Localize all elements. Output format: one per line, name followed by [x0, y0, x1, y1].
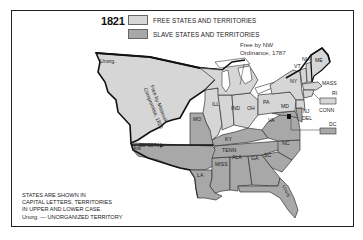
label-ri: RI: [332, 90, 337, 96]
label-la: LA: [197, 172, 204, 178]
label-sc: SC: [264, 152, 271, 158]
nw-ordinance-line2: Ordinance, 1787: [240, 49, 286, 57]
region-dc: [287, 114, 291, 119]
label-ill: ILL: [212, 101, 219, 107]
footnote-line4: Unorg. — UNORGANIZED TERRITORY: [22, 214, 122, 221]
label-ky: KY: [225, 136, 232, 142]
label-mo: MO: [193, 116, 201, 122]
label-me: ME: [315, 57, 323, 63]
label-unorg-west: Unorg.: [100, 58, 116, 64]
footnote-line1: STATES ARE SHOWN IN: [22, 192, 122, 199]
label-ind: IND: [231, 105, 240, 111]
label-nc: NC: [282, 140, 290, 146]
label-tenn: TENN: [222, 147, 236, 153]
label-oh: OH: [247, 105, 255, 111]
label-ga: GA: [251, 155, 259, 161]
label-ny: NY: [290, 78, 298, 84]
region-conn: [303, 90, 314, 98]
label-va: VA: [268, 117, 275, 123]
latitude-marker: 36°30'N ▶: [139, 142, 165, 148]
dc-callout: [320, 128, 336, 134]
label-vt: VT: [294, 63, 301, 69]
footnote: STATES ARE SHOWN IN CAPITAL LETTERS, TER…: [22, 192, 122, 221]
nw-ordinance-note: Free by NW Ordinance, 1787: [240, 41, 286, 56]
nw-ordinance-line1: Free by NW: [240, 41, 286, 49]
label-mass: MASS: [322, 80, 337, 86]
region-mass: [302, 82, 322, 90]
label-conn: CONN: [319, 107, 335, 113]
label-ala: ALA: [232, 154, 242, 160]
footnote-line3: IN UPPER AND LOWER CASE.: [22, 206, 122, 213]
ri-callout: [320, 98, 336, 104]
label-nh: NH: [302, 56, 310, 62]
footnote-line2: CAPITAL LETTERS, TERRITORIES: [22, 199, 122, 206]
label-del: DEL: [302, 115, 312, 121]
label-md: MD: [281, 103, 289, 109]
label-miss: MISS: [215, 161, 228, 167]
label-pa: PA: [263, 99, 270, 105]
label-dc: DC: [329, 121, 337, 127]
label-nj: NJ: [303, 108, 310, 114]
